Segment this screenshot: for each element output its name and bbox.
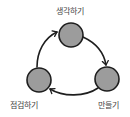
node-check xyxy=(27,68,51,92)
arrow-make-to-check xyxy=(50,88,98,95)
node-make xyxy=(95,67,119,91)
node-think xyxy=(59,23,83,47)
cycle-diagram: 생각하기 만들기 점검하기 xyxy=(0,0,130,117)
label-think: 생각하기 xyxy=(56,5,84,16)
label-make: 만들기 xyxy=(98,99,119,110)
label-check: 점검하기 xyxy=(10,99,38,110)
arrow-think-to-make xyxy=(83,37,106,65)
arrow-check-to-think xyxy=(37,32,57,67)
